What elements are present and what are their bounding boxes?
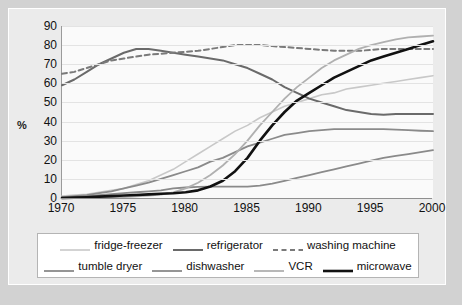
- x-tick-label: 1970: [48, 201, 75, 215]
- x-tick-label: 1975: [109, 201, 136, 215]
- plot-area: [61, 26, 433, 198]
- gridline: [62, 141, 433, 142]
- y-tick-label: 60: [31, 77, 57, 89]
- legend-item-tumble-dryer[interactable]: tumble dryer: [44, 261, 142, 273]
- legend-item-label: VCR: [288, 261, 312, 273]
- legend-line-swatch: [323, 262, 353, 272]
- legend-item-refrigerator[interactable]: refrigerator: [173, 240, 263, 252]
- legend-row: tumble dryerdishwasherVCRmicrowave: [38, 256, 418, 277]
- chart-series-svg: [62, 26, 433, 198]
- x-tick-label: 1990: [295, 201, 322, 215]
- gridline: [62, 45, 433, 46]
- legend-item-microwave[interactable]: microwave: [323, 261, 412, 273]
- legend-item-label: dishwasher: [186, 261, 244, 273]
- legend-item-label: washing machine: [307, 240, 396, 252]
- plot-block: % 0102030405060708090 197019751980198519…: [9, 9, 447, 225]
- y-tick-label: 80: [31, 39, 57, 51]
- gridline: [62, 26, 433, 27]
- gridline: [62, 122, 433, 123]
- series-line-VCR: [62, 36, 433, 198]
- legend-item-label: refrigerator: [207, 240, 263, 252]
- x-tick-label: 2000: [419, 201, 446, 215]
- chart-legend: fridge-freezerrefrigeratorwashing machin…: [37, 233, 419, 278]
- y-tick-label: 40: [31, 116, 57, 128]
- legend-line-swatch: [60, 241, 90, 251]
- legend-item-label: microwave: [357, 261, 412, 273]
- x-tick-label: 1980: [171, 201, 198, 215]
- y-tick-label: 10: [31, 173, 57, 185]
- y-axis-tick-labels: 0102030405060708090: [31, 26, 57, 198]
- y-tick-label: 30: [31, 135, 57, 147]
- legend-item-label: fridge-freezer: [94, 240, 162, 252]
- legend-line-swatch: [273, 241, 303, 251]
- y-tick-label: 50: [31, 96, 57, 108]
- legend-row: fridge-freezerrefrigeratorwashing machin…: [38, 235, 418, 256]
- x-axis-line: [61, 198, 432, 199]
- legend-line-swatch: [44, 262, 74, 272]
- gridline: [62, 179, 433, 180]
- legend-item-label: tumble dryer: [78, 261, 142, 273]
- gridline: [62, 102, 433, 103]
- y-tick-label: 90: [31, 20, 57, 32]
- legend-item-VCR[interactable]: VCR: [254, 261, 312, 273]
- x-tick-label: 1985: [233, 201, 260, 215]
- legend-item-dishwasher[interactable]: dishwasher: [152, 261, 244, 273]
- y-tick-label: 20: [31, 154, 57, 166]
- x-axis-tick-labels: 1970197519801985199019952000: [61, 201, 432, 219]
- legend-line-swatch: [152, 262, 182, 272]
- legend-line-swatch: [254, 262, 284, 272]
- gridline: [62, 160, 433, 161]
- legend-line-swatch: [173, 241, 203, 251]
- chart-figure: % 0102030405060708090 197019751980198519…: [8, 8, 446, 285]
- legend-item-fridge-freezer[interactable]: fridge-freezer: [60, 240, 162, 252]
- y-tick-label: 70: [31, 58, 57, 70]
- x-tick-label: 1995: [357, 201, 384, 215]
- y-axis-title: %: [17, 119, 27, 131]
- legend-item-washing-machine[interactable]: washing machine: [273, 240, 396, 252]
- gridline: [62, 64, 433, 65]
- gridline: [62, 83, 433, 84]
